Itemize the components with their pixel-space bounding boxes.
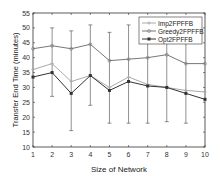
x-tick-label: 2 <box>50 151 54 158</box>
svg-text:Greedy2FPFFB: Greedy2FPFFB <box>158 28 204 36</box>
svg-text:Opt2FPFFB: Opt2FPFFB <box>158 36 193 44</box>
x-tick-label: 6 <box>127 151 131 158</box>
y-tick-label: 45 <box>22 39 30 46</box>
svg-text:Imp2FPFFB: Imp2FPFFB <box>158 20 193 28</box>
legend: Imp2FPFFBGreedy2FPFFBOpt2FPFFB <box>139 17 204 44</box>
y-axis-label: Transfer End Time (minutes) <box>11 32 20 127</box>
y-tick-label: 20 <box>22 114 30 121</box>
y-tick-label: 10 <box>22 144 30 151</box>
y-tick-label: 35 <box>22 69 30 76</box>
x-tick-label: 4 <box>88 151 92 158</box>
x-tick-label: 1 <box>31 151 35 158</box>
x-tick-label: 3 <box>69 151 73 158</box>
y-tick-label: 40 <box>22 54 30 61</box>
y-tick-label: 15 <box>22 129 30 136</box>
y-tick-label: 55 <box>22 10 30 17</box>
x-tick-label: 9 <box>184 151 188 158</box>
y-tick-label: 30 <box>22 84 30 91</box>
y-tick-label: 50 <box>22 24 30 31</box>
y-tick-label: 25 <box>22 99 30 106</box>
line-chart: 10152025303540455055 12345678910 Size of… <box>0 0 224 176</box>
x-axis-label: Size of Network <box>91 165 148 174</box>
x-tick-label: 8 <box>165 151 169 158</box>
x-tick-label: 7 <box>146 151 150 158</box>
x-tick-label: 10 <box>201 151 209 158</box>
x-tick-label: 5 <box>107 151 111 158</box>
